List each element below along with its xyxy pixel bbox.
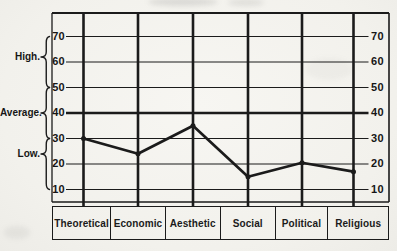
y-tick-right: 30 xyxy=(371,133,388,144)
category-label-political: Political xyxy=(275,207,328,239)
y-tick-left: 40 xyxy=(50,107,65,118)
category-gridlines xyxy=(84,13,354,206)
scanned-values-profile-figure: 70 60 50 40 30 20 10 70 60 50 40 30 20 1… xyxy=(0,0,397,251)
data-point xyxy=(81,136,86,141)
range-braces xyxy=(41,37,50,190)
data-point xyxy=(351,169,356,174)
range-label-average: Average. xyxy=(0,107,40,119)
category-label-economic: Economic xyxy=(110,207,165,239)
y-tick-right: 50 xyxy=(371,82,388,93)
range-brace xyxy=(41,139,50,190)
plot-frame xyxy=(52,13,389,202)
y-tick-left: 30 xyxy=(50,133,65,144)
y-tick-right: 40 xyxy=(371,107,388,118)
y-tick-left: 60 xyxy=(50,56,65,67)
category-label-social: Social xyxy=(220,207,275,239)
y-tick-left: 20 xyxy=(50,158,65,169)
range-brace xyxy=(41,37,50,88)
profile-polyline xyxy=(81,123,356,179)
category-axis: Theoretical Economic Aesthetic Social Po… xyxy=(52,206,389,240)
data-point xyxy=(136,151,141,156)
range-label-low: Low. xyxy=(0,148,40,160)
data-point xyxy=(191,123,196,128)
category-label-religious: Religious xyxy=(327,207,388,239)
y-tick-right: 10 xyxy=(371,184,388,195)
y-tick-left: 10 xyxy=(50,184,65,195)
range-label-high: High. xyxy=(0,51,40,63)
data-point xyxy=(300,160,305,165)
y-tick-left: 50 xyxy=(50,82,65,93)
y-tick-right: 70 xyxy=(371,31,388,42)
range-brace xyxy=(41,88,50,139)
profile-line xyxy=(84,126,354,177)
data-point xyxy=(246,174,251,179)
category-label-theoretical: Theoretical xyxy=(53,207,110,239)
y-tick-right: 60 xyxy=(371,56,388,67)
y-tick-left: 70 xyxy=(50,31,65,42)
category-label-aesthetic: Aesthetic xyxy=(165,207,220,239)
y-tick-right: 20 xyxy=(371,158,388,169)
